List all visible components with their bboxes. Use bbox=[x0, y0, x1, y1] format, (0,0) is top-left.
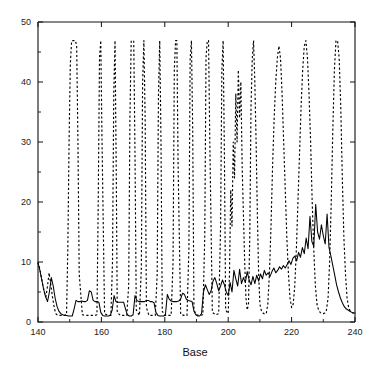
x-tick-label: 220 bbox=[284, 327, 299, 337]
line-chart: 140160180200220240 01020304050 Base bbox=[0, 0, 370, 376]
series-layer bbox=[38, 41, 355, 316]
series-line-dashed bbox=[38, 41, 355, 316]
series-line-solid bbox=[38, 204, 355, 316]
y-tick-label: 0 bbox=[26, 317, 31, 327]
y-tick-labels: 01020304050 bbox=[21, 17, 31, 327]
y-tick-label: 20 bbox=[21, 197, 31, 207]
y-tick-label: 10 bbox=[21, 257, 31, 267]
x-axis-title: Base bbox=[182, 346, 207, 358]
y-tick-label: 40 bbox=[21, 77, 31, 87]
x-tick-labels: 140160180200220240 bbox=[30, 327, 362, 337]
x-tick-label: 160 bbox=[94, 327, 109, 337]
y-tick-label: 30 bbox=[21, 137, 31, 147]
chart-container: 140160180200220240 01020304050 Base bbox=[0, 0, 370, 376]
x-tick-label: 180 bbox=[157, 327, 172, 337]
x-tick-label: 140 bbox=[30, 327, 45, 337]
x-tick-label: 240 bbox=[347, 327, 362, 337]
x-tick-label: 200 bbox=[221, 327, 236, 337]
y-tick-label: 50 bbox=[21, 17, 31, 27]
